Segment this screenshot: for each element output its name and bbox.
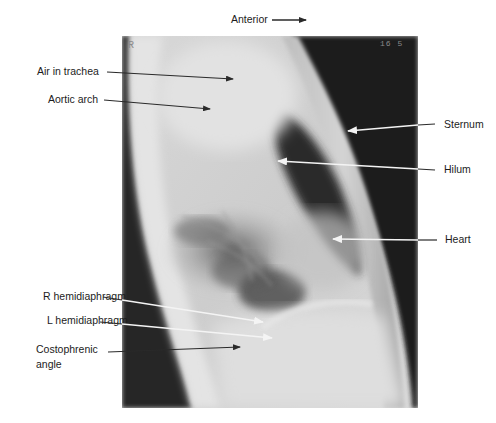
label-costophrenic-line1: Costophrenic xyxy=(36,343,98,356)
label-r-hemidiaphragm: R hemidiaphragm xyxy=(43,290,126,303)
label-l-hemidiaphragm: L hemidiaphragm xyxy=(47,314,128,327)
label-heart: Heart xyxy=(445,233,471,246)
label-air-in-trachea: Air in trachea xyxy=(37,65,99,78)
side-marker-r: R xyxy=(128,40,135,51)
corner-marker-text: 16 5 xyxy=(380,39,403,48)
label-hilum: Hilum xyxy=(444,163,471,176)
label-costophrenic-angle: Costophrenic angle xyxy=(36,343,98,371)
label-sternum: Sternum xyxy=(444,118,484,131)
label-costophrenic-line2: angle xyxy=(36,358,98,371)
lateral-chest-xray-image: R 16 5 xyxy=(122,36,418,408)
anterior-direction-label: Anterior xyxy=(231,13,268,26)
label-aortic-arch: Aortic arch xyxy=(48,93,98,106)
